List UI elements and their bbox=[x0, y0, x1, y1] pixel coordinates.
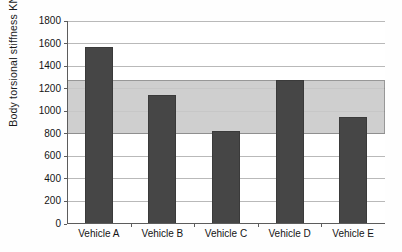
y-tick-label: 1600 bbox=[21, 39, 61, 49]
y-tick-label: 1800 bbox=[21, 16, 61, 26]
y-tick-label: 0 bbox=[21, 219, 61, 229]
x-axis-label: Vehicle D bbox=[258, 228, 322, 239]
x-axis-label: Vehicle E bbox=[321, 228, 385, 239]
x-axis-line bbox=[67, 223, 385, 224]
y-tick-label: 1400 bbox=[21, 61, 61, 71]
y-tick-label: 600 bbox=[21, 151, 61, 161]
y-tick-label: 800 bbox=[21, 129, 61, 139]
y-axis-title-text: Body torsional stiffness KN-m rad bbox=[7, 0, 19, 127]
x-axis-label: Vehicle C bbox=[194, 228, 258, 239]
y-axis-line bbox=[67, 21, 68, 224]
y-tick-label: 1000 bbox=[21, 106, 61, 116]
y-axis-title: Body torsional stiffness KN-m rad−1 bbox=[6, 0, 20, 138]
x-tick-mark bbox=[321, 224, 322, 227]
y-axis-ticks bbox=[67, 21, 385, 224]
y-tick-label: 1200 bbox=[21, 84, 61, 94]
x-axis-label: Vehicle B bbox=[131, 228, 195, 239]
plot-area bbox=[67, 21, 385, 224]
bar-chart: Body torsional stiffness KN-m rad−1 Vehi… bbox=[0, 0, 402, 252]
x-tick-mark bbox=[258, 224, 259, 227]
x-tick-mark bbox=[131, 224, 132, 227]
y-tick-label: 200 bbox=[21, 196, 61, 206]
x-axis-label: Vehicle A bbox=[67, 228, 131, 239]
y-tick-label: 400 bbox=[21, 174, 61, 184]
x-tick-mark bbox=[194, 224, 195, 227]
